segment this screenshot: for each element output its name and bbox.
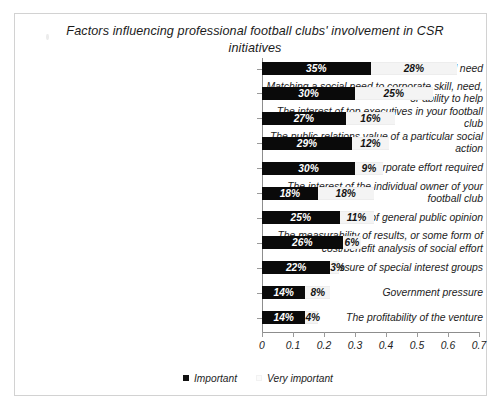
x-axis-tick-label: 0.5 [402, 340, 432, 351]
bar-value-label-important: 27% [262, 112, 346, 125]
bar-value-label-very-important: 8% [305, 286, 330, 299]
chart-frame: Factors influencing professional footbal… [14, 13, 487, 396]
x-axis-tick-label: 0.7 [464, 340, 494, 351]
bar-value-label-very-important: 11% [340, 211, 374, 224]
bar-value-label-very-important: 12% [352, 137, 389, 150]
bar-value-label-important: 30% [262, 162, 355, 175]
legend-label: Very important [267, 373, 333, 384]
bar-value-label-very-important: 4% [305, 311, 317, 324]
x-axis-tick-label: 0.2 [309, 340, 339, 351]
x-axis-tick [386, 332, 387, 337]
legend-item: Very important [256, 373, 333, 384]
x-axis-tick [293, 332, 294, 337]
bar-value-label-important: 25% [262, 211, 340, 224]
bar-value-label-important: 29% [262, 137, 352, 150]
x-axis-tick [479, 332, 480, 337]
bar-value-label-very-important: 18% [318, 187, 374, 200]
bar-value-label-important: 14% [262, 286, 305, 299]
chart-legend: ImportantVery important [183, 371, 352, 385]
bar-value-label-important: 14% [262, 311, 305, 324]
bar-value-label-important: 35% [262, 62, 371, 75]
x-axis-tick-label: 0 [247, 340, 277, 351]
x-axis-tick [417, 332, 418, 337]
bar-value-label-very-important: 16% [346, 112, 396, 125]
legend-item: Important [183, 373, 237, 384]
x-axis-line [262, 332, 479, 333]
legend-swatch-very-important-icon [256, 375, 262, 381]
bar-value-label-important: 18% [262, 187, 318, 200]
x-axis-tick-label: 0.6 [433, 340, 463, 351]
x-axis-tick-label: 0.4 [371, 340, 401, 351]
x-axis-tick [355, 332, 356, 337]
legend-swatch-important-icon [183, 375, 189, 381]
x-axis-tick-label: 0.3 [340, 340, 370, 351]
bar-value-label-important: 26% [262, 236, 343, 249]
bar-value-label-important: 30% [262, 87, 355, 100]
plot-area: The seriousness of a social need35%28%Ma… [15, 14, 488, 397]
bar-value-label-very-important: 3% [330, 261, 339, 274]
x-axis-tick [324, 332, 325, 337]
bar-value-label-very-important: 25% [355, 87, 433, 100]
x-axis-tick [448, 332, 449, 337]
bar-value-label-very-important: 9% [355, 162, 383, 175]
bar-value-label-very-important: 28% [371, 62, 458, 75]
legend-label: Important [194, 373, 237, 384]
x-axis-tick [262, 332, 263, 337]
x-axis-tick-label: 0.1 [278, 340, 308, 351]
bar-value-label-important: 22% [262, 261, 330, 274]
bar-value-label-very-important: 6% [343, 236, 362, 249]
